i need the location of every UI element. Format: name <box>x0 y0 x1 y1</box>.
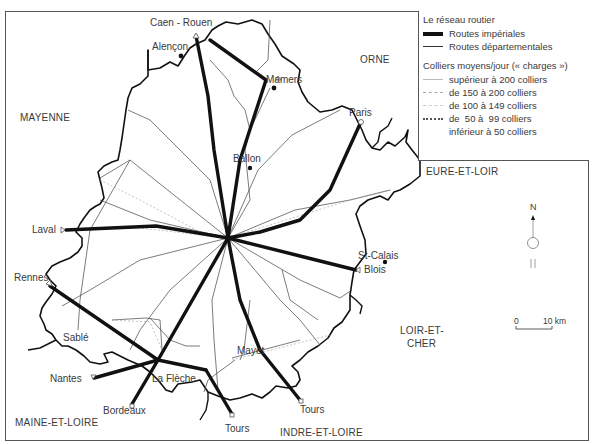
traffic-class-lines <box>62 180 392 360</box>
legend-label: de 150 à 200 colliers <box>449 87 537 98</box>
departmental-road-swatch <box>423 46 443 47</box>
legend-traffic-title: Colliers moyens/jour (« charges ») <box>423 60 585 73</box>
town-label-ballon: Ballon <box>233 154 261 164</box>
imperial-roads <box>50 36 360 414</box>
compass-north-label: N <box>530 203 537 212</box>
legend-label: de 50 à 99 colliers <box>449 113 531 124</box>
scale-end-label: 10 km <box>543 317 566 326</box>
destination-label-tours-west: Tours <box>225 424 249 434</box>
region-label-eure-et-loir: EURE-ET-LOIR <box>426 167 498 177</box>
destination-label-nantes: Nantes <box>50 374 82 384</box>
traffic-50-99-swatch <box>423 118 443 120</box>
town-label-mayet: Mayet <box>237 346 264 356</box>
road-caen-rouen <box>196 36 228 238</box>
destination-label-bordeaux: Bordeaux <box>103 406 146 416</box>
compass <box>528 215 539 268</box>
road-tours-2 <box>228 238 300 400</box>
border-fragment <box>350 295 362 314</box>
traffic-100-149-swatch <box>423 105 443 106</box>
destination-label-laval: Laval <box>32 225 56 235</box>
border-fragment <box>200 392 208 420</box>
scale-bar <box>516 326 552 329</box>
destination-label-paris: Paris <box>349 108 372 118</box>
road-laval <box>66 226 228 238</box>
legend-title: Le réseau routier <box>423 14 585 27</box>
departmental-roads <box>62 20 390 392</box>
border-fragment <box>372 118 392 148</box>
region-label-loir-et-cher-2: CHER <box>407 339 436 349</box>
town-markers <box>179 54 388 265</box>
legend-label: Routes impériales <box>449 28 525 39</box>
destination-markers <box>46 33 364 417</box>
road-blois <box>228 238 356 270</box>
region-label-loir-et-cher-1: LOIR-ET- <box>400 326 444 336</box>
destination-label-tours-east: Tours <box>300 405 324 415</box>
town-label-st-calais: St-Calais <box>358 251 399 261</box>
traffic-150-200-swatch <box>423 92 443 93</box>
legend-item-100-149: de 100 à 149 colliers <box>423 99 585 112</box>
legend-item-lt50: inférieur à 50 colliers <box>423 125 585 138</box>
legend-box: Le réseau routier Routes impériales Rout… <box>418 11 589 161</box>
scale-start-label: 0 <box>514 317 519 326</box>
town-label-mamers: Mamers <box>266 75 302 85</box>
le-mans-hub <box>225 235 231 241</box>
region-label-maine-et-loire: MAINE-ET-LOIRE <box>15 418 98 428</box>
region-label-mayenne: MAYENNE <box>20 113 70 123</box>
imperial-road-swatch <box>423 32 443 36</box>
region-label-orne: ORNE <box>360 55 390 65</box>
destination-label-blois: Blois <box>364 265 386 275</box>
legend-label: Routes départementales <box>449 41 553 52</box>
legend-item-gt200: supérieur à 200 colliers <box>423 73 585 86</box>
legend-item-imperial: Routes impériales <box>423 27 585 40</box>
town-label-sable: Sablé <box>63 333 89 343</box>
traffic-gt200-swatch <box>423 79 443 80</box>
town-label-la-fleche: La Flèche <box>152 374 196 384</box>
legend-label: de 100 à 149 colliers <box>449 100 537 111</box>
legend-item-150-200: de 150 à 200 colliers <box>423 86 585 99</box>
department-border <box>40 20 420 400</box>
legend-label: inférieur à 50 colliers <box>449 126 537 137</box>
border-fragment <box>28 340 56 350</box>
region-label-indre-et-loire: INDRE-ET-LOIRE <box>280 428 363 438</box>
legend-item-departmental: Routes départementales <box>423 40 585 53</box>
destination-label-rennes: Rennes <box>14 273 48 283</box>
destination-label-caen-rouen: Caen - Rouen <box>150 18 212 28</box>
town-label-alencon: Alençon <box>152 42 188 52</box>
legend-item-50-99: de 50 à 99 colliers <box>423 112 585 125</box>
legend-label: supérieur à 200 colliers <box>449 74 547 85</box>
